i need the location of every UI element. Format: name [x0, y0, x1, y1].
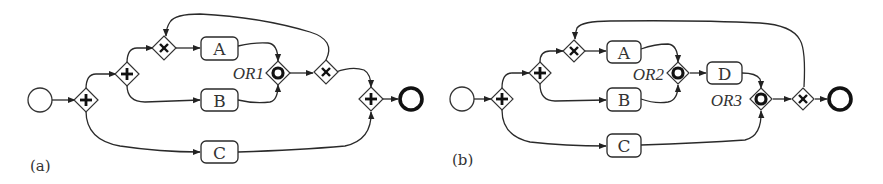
task-b-label: B	[618, 90, 631, 110]
task-c: C	[607, 134, 641, 157]
edge-and1-and2	[86, 74, 116, 89]
end-event	[400, 88, 422, 110]
task-b: B	[607, 88, 641, 111]
edge-task-c-or3	[641, 111, 761, 145]
end-event	[829, 88, 851, 110]
bpmn-figure: A B C OR1 (a)	[0, 0, 883, 184]
inclusive-gateway-or3	[750, 88, 772, 110]
diagram-b: A B C OR2 D OR3 (b)	[450, 21, 851, 169]
edge-and1-task-c	[502, 110, 606, 146]
exclusive-gateway	[792, 88, 814, 110]
start-event	[450, 87, 474, 111]
task-b-label: B	[213, 91, 226, 111]
task-a-label: A	[617, 43, 631, 63]
edge-xor2-xor1-loop	[166, 14, 329, 60]
or3-label: OR3	[711, 91, 742, 110]
task-c-label: C	[213, 143, 226, 163]
or1-label: OR1	[233, 64, 264, 83]
task-b: B	[201, 89, 238, 111]
edge-and2-task-b	[540, 84, 606, 101]
diagram-a-edges	[52, 14, 398, 152]
diagram-a: A B C OR1 (a)	[28, 14, 422, 175]
task-a: A	[607, 41, 641, 63]
exclusive-gateway	[314, 60, 338, 84]
edge-and1-and2	[502, 73, 529, 88]
or2-label: OR2	[633, 65, 665, 84]
exclusive-gateway	[152, 36, 176, 60]
inclusive-gateway-or1	[266, 61, 290, 85]
parallel-gateway	[491, 88, 513, 110]
exclusive-gateway	[563, 40, 585, 62]
parallel-gateway	[529, 62, 551, 84]
task-a: A	[201, 37, 238, 60]
caption-a: (a)	[30, 157, 51, 175]
parallel-gateway	[74, 88, 98, 112]
edge-xor2-and3	[336, 68, 371, 87]
parallel-gateway	[359, 87, 383, 111]
edge-and2-xor1	[127, 48, 153, 63]
edge-task-b-or1	[238, 85, 278, 103]
edge-task-a-or2	[641, 44, 678, 62]
edge-and2-xor1	[540, 51, 563, 62]
edge-and2-task-b	[127, 85, 200, 102]
edge-and1-task-c	[86, 111, 200, 152]
edge-task-b-or2	[641, 85, 678, 103]
caption-b: (b)	[452, 151, 473, 169]
task-d: D	[707, 62, 742, 84]
edge-task-c-and3	[238, 112, 371, 152]
start-event	[28, 88, 52, 112]
edge-task-d-or3	[742, 73, 761, 88]
task-c-label: C	[617, 136, 630, 156]
task-a-label: A	[212, 39, 226, 59]
task-c: C	[201, 141, 238, 163]
task-d-label: D	[718, 64, 732, 84]
edge-task-a-or1	[238, 43, 278, 61]
inclusive-gateway-or2	[667, 62, 689, 84]
parallel-gateway	[115, 62, 139, 86]
